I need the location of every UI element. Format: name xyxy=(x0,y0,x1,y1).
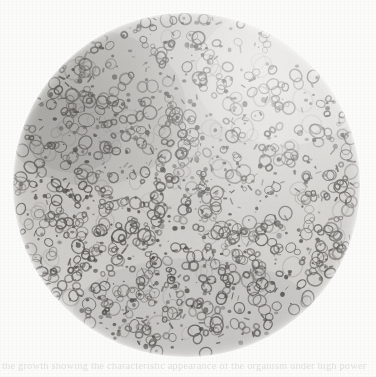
caption-ghost-text: the growth showing the characteristic ap… xyxy=(2,363,366,371)
photomicrograph-figure xyxy=(13,13,360,357)
scanned-page: the growth showing the characteristic ap… xyxy=(0,0,376,377)
microscope-field-of-view xyxy=(13,13,360,357)
caption-ghost-line: the growth showing the characteristic ap… xyxy=(0,363,376,377)
micrograph-texture xyxy=(13,13,360,357)
